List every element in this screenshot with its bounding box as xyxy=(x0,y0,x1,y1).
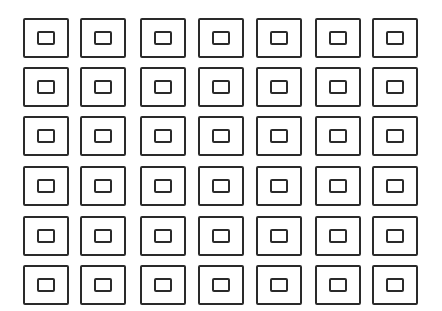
outer-rectangle xyxy=(23,216,69,256)
outer-rectangle xyxy=(23,18,69,58)
outer-rectangle xyxy=(140,166,186,206)
outer-rectangle xyxy=(315,216,361,256)
outer-rectangle xyxy=(80,116,126,156)
inner-rectangle xyxy=(94,229,112,243)
inner-rectangle xyxy=(94,179,112,193)
inner-rectangle xyxy=(94,129,112,143)
outer-rectangle xyxy=(198,216,244,256)
outer-rectangle xyxy=(256,116,302,156)
outer-rectangle xyxy=(372,265,418,305)
outer-rectangle xyxy=(256,67,302,107)
outer-rectangle xyxy=(315,67,361,107)
inner-rectangle xyxy=(386,80,404,94)
inner-rectangle xyxy=(37,179,55,193)
outer-rectangle xyxy=(198,265,244,305)
inner-rectangle xyxy=(94,278,112,292)
outer-rectangle xyxy=(372,18,418,58)
inner-rectangle xyxy=(154,129,172,143)
outer-rectangle xyxy=(198,116,244,156)
outer-rectangle xyxy=(256,216,302,256)
outer-rectangle xyxy=(140,216,186,256)
inner-rectangle xyxy=(154,179,172,193)
inner-rectangle xyxy=(386,278,404,292)
inner-rectangle xyxy=(386,229,404,243)
inner-rectangle xyxy=(270,80,288,94)
inner-rectangle xyxy=(154,31,172,45)
outer-rectangle xyxy=(256,166,302,206)
outer-rectangle xyxy=(80,216,126,256)
outer-rectangle xyxy=(372,216,418,256)
inner-rectangle xyxy=(94,31,112,45)
inner-rectangle xyxy=(329,278,347,292)
outer-rectangle xyxy=(198,67,244,107)
inner-rectangle xyxy=(154,80,172,94)
inner-rectangle xyxy=(154,278,172,292)
outer-rectangle xyxy=(198,166,244,206)
inner-rectangle xyxy=(154,229,172,243)
inner-rectangle xyxy=(270,278,288,292)
inner-rectangle xyxy=(386,31,404,45)
inner-rectangle xyxy=(329,229,347,243)
inner-rectangle xyxy=(270,179,288,193)
outer-rectangle xyxy=(80,67,126,107)
inner-rectangle xyxy=(37,229,55,243)
outer-rectangle xyxy=(140,18,186,58)
outer-rectangle xyxy=(23,67,69,107)
inner-rectangle xyxy=(37,129,55,143)
outer-rectangle xyxy=(372,67,418,107)
outer-rectangle xyxy=(140,67,186,107)
outer-rectangle xyxy=(256,18,302,58)
outer-rectangle xyxy=(80,18,126,58)
inner-rectangle xyxy=(212,179,230,193)
outer-rectangle xyxy=(23,116,69,156)
inner-rectangle xyxy=(270,129,288,143)
inner-rectangle xyxy=(212,278,230,292)
inner-rectangle xyxy=(270,229,288,243)
outer-rectangle xyxy=(80,265,126,305)
inner-rectangle xyxy=(37,31,55,45)
inner-rectangle xyxy=(212,31,230,45)
outer-rectangle xyxy=(315,116,361,156)
inner-rectangle xyxy=(329,179,347,193)
outer-rectangle xyxy=(256,265,302,305)
outer-rectangle xyxy=(372,166,418,206)
outer-rectangle xyxy=(315,166,361,206)
inner-rectangle xyxy=(329,129,347,143)
outer-rectangle xyxy=(140,116,186,156)
inner-rectangle xyxy=(212,229,230,243)
rectangle-grid xyxy=(0,0,442,311)
inner-rectangle xyxy=(386,179,404,193)
outer-rectangle xyxy=(80,166,126,206)
outer-rectangle xyxy=(198,18,244,58)
outer-rectangle xyxy=(315,18,361,58)
outer-rectangle xyxy=(23,166,69,206)
outer-rectangle xyxy=(315,265,361,305)
inner-rectangle xyxy=(212,129,230,143)
inner-rectangle xyxy=(270,31,288,45)
inner-rectangle xyxy=(37,278,55,292)
inner-rectangle xyxy=(329,80,347,94)
inner-rectangle xyxy=(329,31,347,45)
inner-rectangle xyxy=(94,80,112,94)
outer-rectangle xyxy=(140,265,186,305)
inner-rectangle xyxy=(386,129,404,143)
inner-rectangle xyxy=(212,80,230,94)
inner-rectangle xyxy=(37,80,55,94)
outer-rectangle xyxy=(23,265,69,305)
outer-rectangle xyxy=(372,116,418,156)
